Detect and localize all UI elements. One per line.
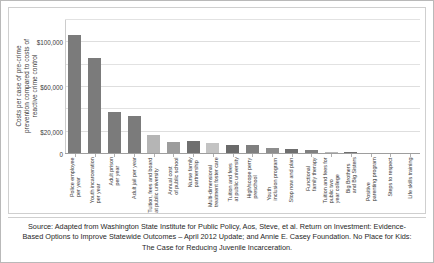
bar-slot [124,20,144,154]
x-tick-label-line: per year [75,157,81,197]
x-label-slot: Annual costof public school [164,156,184,218]
x-tick-label-line: treatment foster care [213,157,219,207]
x-tick-label-line: Positive [364,157,370,201]
y-axis-tick-labels: 0$20,000$60,000$100,000 [11,20,63,154]
x-tick-label: Youthinclusion program [266,157,278,200]
x-label-slot: Multi-dimensionaltreatment foster care [203,156,223,218]
bar-slot [302,20,322,154]
x-label-slot: Adult prisonper year [104,156,124,218]
x-label-slot: Big Brothersand Big Sisters [341,156,361,218]
bar-slot [85,20,105,154]
x-tick-label-line: partnership [193,157,199,187]
x-tick-label: Life skills training [407,157,413,198]
bar-slot [104,20,124,154]
x-axis-line [65,153,420,154]
x-tick-label: Police employeeper year [68,157,80,197]
x-label-slot: Stop now and plan [282,156,302,218]
x-tick-label: Adult jail per year [131,157,137,199]
x-label-slot: Tuition and fees forpublic twoyear colle… [321,156,341,218]
bar-slot [183,20,203,154]
chart-frame: Costs per case of pre-crime prevention c… [8,7,426,214]
bar [108,112,121,154]
x-label-slot: Youth incarcerationper year [85,156,105,218]
bar-slot [381,20,401,154]
x-label-slot: Tuition and feesat public university [223,156,243,218]
x-tick-label-line: family therapy [311,157,317,191]
x-tick-label: Positiveparenting program [364,157,376,201]
x-label-slot: Tuition, fees and boardat public univers… [144,156,164,218]
x-tick-label: Stop now and plan [289,157,295,202]
x-tick-label-line: Stop now and plan [289,157,295,202]
x-tick-label-line: and Big Sisters [351,157,357,193]
x-label-slot: Adult jail per year [124,156,144,218]
x-tick-label-line: preschool [252,157,258,198]
bar-series [65,20,420,154]
x-tick-label-line: at public university [233,157,239,201]
x-tick-label-line: inclusion program [272,157,278,200]
x-tick-label-line: at public university [154,157,160,212]
x-tick-label: Big Brothersand Big Sisters [345,157,357,193]
bar-slot [262,20,282,154]
x-tick-label-line: Life skills training [407,157,413,198]
x-label-slot: Positiveparenting program [361,156,381,218]
bar-slot [341,20,361,154]
x-tick-label-line: parenting program [371,157,377,201]
x-tick-label: Multi-dimensionaltreatment foster care [207,157,219,207]
bar [88,58,101,154]
bar-slot [242,20,262,154]
x-tick-label-line: Adult jail per year [131,157,137,199]
x-label-slot: Steps to respect [381,156,401,218]
x-label-slot: Nurse familypartnership [183,156,203,218]
bar-slot [400,20,420,154]
bar-slot [65,20,85,154]
bar-slot [203,20,223,154]
x-axis-tick-labels: Police employeeper yearYouth incarcerati… [65,156,420,218]
x-tick-label-line: Youth [266,157,272,200]
x-tick-label-line: per year [95,157,101,203]
x-tick-label: Annual costof public school [167,157,179,194]
x-tick-label-line: High/scope perry [246,157,252,198]
x-tick-label-line: Youth incarceration [88,157,94,203]
x-tick-label: Nurse familypartnership [187,157,199,187]
bar-slot [321,20,341,154]
x-tick-label: Steps to respect [387,157,393,196]
y-tick-label: 0 [17,151,63,158]
x-tick-label: Functionalfamily therapy [305,157,317,191]
x-tick-label-line: year college [334,157,340,203]
x-tick-label: Tuition and feesat public university [227,157,239,201]
bar-slot [223,20,243,154]
x-tick-label-line: Multi-dimensional [207,157,213,207]
chart-page: Costs per case of pre-crime prevention c… [0,0,434,263]
x-tick-label: High/scope perrypreschool [246,157,258,198]
x-tick-label-line: Police employee [68,157,74,197]
x-tick-label: Tuition and fees forpublic twoyear colle… [322,157,341,203]
bar-slot [164,20,184,154]
x-label-slot: High/scope perrypreschool [242,156,262,218]
y-tick-label: $20,000 [17,128,63,135]
x-label-slot: Police employeeper year [65,156,85,218]
plot-area [65,20,420,154]
bar [68,35,81,154]
x-label-slot: Youthinclusion program [262,156,282,218]
x-tick-label-line: Steps to respect [387,157,393,196]
x-tick-label-line: per year [115,157,121,185]
y-tick-label: $60,000 [17,84,63,91]
x-tick-label: Tuition, fees and boardat public univers… [148,157,160,212]
x-tick-label-line: of public school [174,157,180,194]
x-tick-label: Adult prisonper year [108,157,120,185]
bar [147,135,160,154]
source-caption: Source: Adapted from Washington State In… [8,217,426,261]
x-label-slot: Functionalfamily therapy [302,156,322,218]
x-tick-label-line: Tuition and fees [227,157,233,201]
x-tick-label-line: Big Brothers [345,157,351,193]
y-tick-label: $100,000 [17,39,63,46]
bar-slot [361,20,381,154]
x-tick-label: Youth incarcerationper year [88,157,100,203]
bar [128,116,141,154]
bar-slot [144,20,164,154]
x-label-slot: Life skills training [400,156,420,218]
bar-slot [282,20,302,154]
